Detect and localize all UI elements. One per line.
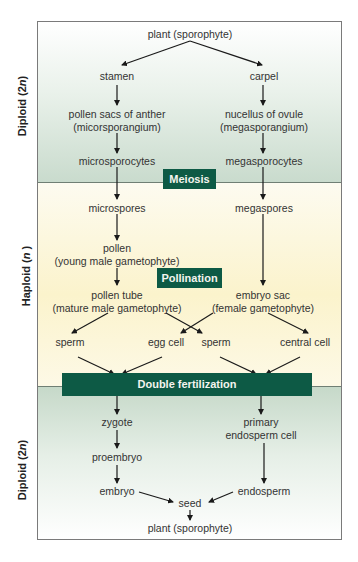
pollination-banner: Pollination (157, 268, 222, 288)
double-fertilization-banner: Double fertilization (62, 373, 312, 396)
node-sperm-left: sperm (55, 336, 84, 349)
node-sperm-right: sperm (201, 336, 230, 349)
diploid-label-bottom: Diploid (2n) (16, 440, 28, 501)
node-megaspores: megaspores (235, 202, 293, 215)
node-zygote: zygote (102, 416, 133, 429)
node-pollen: pollen(young male gametophyte) (55, 242, 180, 267)
node-megasporocytes: megasporocytes (225, 155, 302, 168)
node-carpel: carpel (250, 70, 279, 83)
diploid-label-top: Diploid (2n) (16, 76, 28, 137)
node-central-cell: central cell (280, 336, 330, 349)
meiosis-banner: Meiosis (163, 169, 216, 189)
node-embryo: embryo (99, 485, 134, 498)
node-seed: seed (179, 497, 202, 510)
node-proembryo: proembryo (92, 451, 142, 464)
node-egg-cell: egg cell (148, 336, 184, 349)
haploid-label: Haploid (n ) (20, 246, 32, 307)
node-microspores: microspores (88, 202, 145, 215)
node-pollen-sacs: pollen sacs of anther(micorsporangium) (69, 108, 166, 133)
node-primary-endosperm-cell: primaryendosperm cell (225, 416, 296, 441)
node-plant-sporophyte-top: plant (sporophyte) (148, 28, 233, 41)
node-embryo-sac: embryo sac(female gametophyte) (212, 289, 314, 314)
node-plant-sporophyte-bottom: plant (sporophyte) (148, 522, 233, 535)
diploid-zone-bottom (38, 387, 341, 540)
node-pollen-tube: pollen tube(mature male gametophyte) (53, 289, 182, 314)
node-nucellus: nucellus of ovule(megasporangium) (220, 108, 308, 133)
node-endosperm: endosperm (238, 485, 291, 498)
node-stamen: stamen (100, 70, 134, 83)
node-microsporocytes: microsporocytes (79, 155, 155, 168)
